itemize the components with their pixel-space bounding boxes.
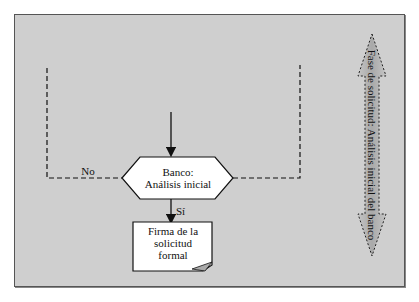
document-label: Firma de la solicitud formal <box>134 225 212 261</box>
decision-label: Banco: Análisis inicial <box>130 166 226 190</box>
yes-label: Sí <box>176 205 192 217</box>
phase-label: Fase de solicitud: Análisis inicial del … <box>366 45 378 245</box>
no-label: No <box>76 165 100 177</box>
